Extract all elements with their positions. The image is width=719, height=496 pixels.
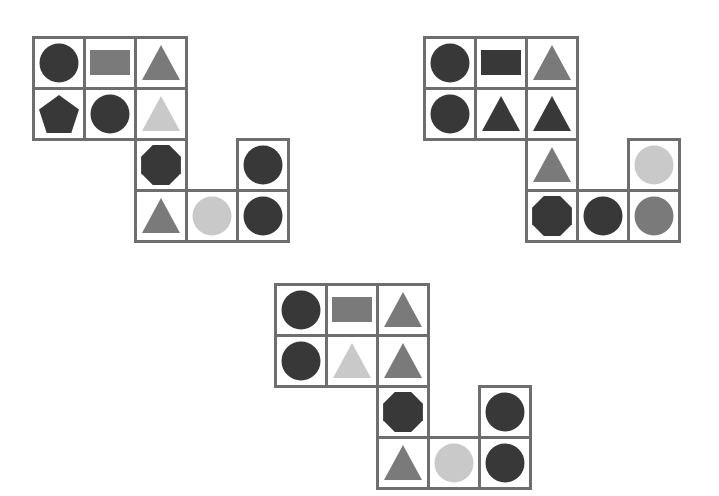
medium-rectangle-icon bbox=[328, 286, 376, 334]
medium-triangle-icon bbox=[528, 39, 576, 87]
grid-cell bbox=[83, 36, 137, 90]
medium-triangle-icon bbox=[528, 141, 576, 189]
grid-cell bbox=[474, 36, 528, 90]
grid-cell bbox=[325, 334, 379, 388]
grid-cell bbox=[274, 334, 328, 388]
dark-circle-icon bbox=[426, 90, 474, 138]
grid-cell bbox=[185, 189, 239, 243]
grid-cell bbox=[236, 138, 290, 192]
grid-cell bbox=[32, 36, 86, 90]
grid-cell bbox=[134, 189, 188, 243]
dark-octagon-icon bbox=[379, 388, 427, 436]
grid-cell bbox=[376, 283, 430, 337]
grid-cell bbox=[274, 283, 328, 337]
medium-triangle-icon bbox=[379, 286, 427, 334]
grid-cell bbox=[236, 189, 290, 243]
dark-triangle-icon bbox=[477, 90, 525, 138]
medium-rectangle-icon bbox=[86, 39, 134, 87]
grid-cell bbox=[134, 87, 188, 141]
dark-circle-icon bbox=[239, 192, 287, 240]
dark-circle-icon bbox=[481, 388, 529, 436]
dark-circle-icon bbox=[579, 192, 627, 240]
dark-circle-icon bbox=[426, 39, 474, 87]
dark-circle-icon bbox=[481, 439, 529, 487]
grid-cell bbox=[134, 36, 188, 90]
light-triangle-icon bbox=[137, 90, 185, 138]
grid-cell bbox=[478, 436, 532, 490]
grid-cell bbox=[423, 87, 477, 141]
dark-circle-icon bbox=[35, 39, 83, 87]
light-circle-icon bbox=[430, 439, 478, 487]
grid-cell bbox=[376, 436, 430, 490]
dark-rectangle-icon bbox=[477, 39, 525, 87]
grid-cell bbox=[474, 87, 528, 141]
grid-cell bbox=[325, 283, 379, 337]
grid-cell bbox=[525, 87, 579, 141]
grid-cell bbox=[576, 189, 630, 243]
grid-cell bbox=[525, 36, 579, 90]
grid-cell bbox=[32, 87, 86, 141]
light-circle-icon bbox=[188, 192, 236, 240]
grid-cell bbox=[627, 138, 681, 192]
dark-circle-icon bbox=[277, 286, 325, 334]
grid-cell bbox=[525, 189, 579, 243]
medium-triangle-icon bbox=[379, 439, 427, 487]
dark-octagon-icon bbox=[528, 192, 576, 240]
dark-triangle-icon bbox=[528, 90, 576, 138]
dark-pentagon-icon bbox=[35, 90, 83, 138]
grid-cell bbox=[376, 385, 430, 439]
medium-triangle-icon bbox=[137, 192, 185, 240]
light-triangle-icon bbox=[328, 337, 376, 385]
dark-circle-icon bbox=[239, 141, 287, 189]
grid-cell bbox=[376, 334, 430, 388]
grid-cell bbox=[423, 36, 477, 90]
grid-cell bbox=[478, 385, 532, 439]
grid-cell bbox=[427, 436, 481, 490]
grid-cell bbox=[83, 87, 137, 141]
dark-circle-icon bbox=[86, 90, 134, 138]
dark-octagon-icon bbox=[137, 141, 185, 189]
grid-cell bbox=[627, 189, 681, 243]
medium-triangle-icon bbox=[379, 337, 427, 385]
medium-triangle-icon bbox=[137, 39, 185, 87]
medium-circle-icon bbox=[630, 192, 678, 240]
dark-circle-icon bbox=[277, 337, 325, 385]
grid-cell bbox=[134, 138, 188, 192]
grid-cell bbox=[525, 138, 579, 192]
light-circle-icon bbox=[630, 141, 678, 189]
